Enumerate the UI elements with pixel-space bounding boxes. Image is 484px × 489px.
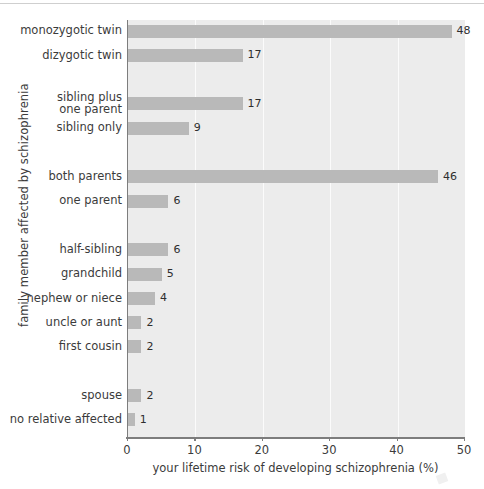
bar-value-label: 2 bbox=[146, 316, 153, 329]
x-tick-label-50: 50 bbox=[444, 443, 484, 457]
bar bbox=[128, 170, 438, 183]
category-label: sibling only bbox=[0, 121, 122, 134]
x-axis-line bbox=[126, 437, 465, 439]
bar bbox=[128, 97, 243, 110]
bar bbox=[128, 25, 452, 38]
category-label: sibling plus one parent bbox=[0, 91, 122, 116]
gridline-40 bbox=[398, 20, 399, 437]
category-label: both parents bbox=[0, 170, 122, 183]
x-tick-mark-0 bbox=[127, 437, 128, 441]
chart-page: family member affected by schizophrenia … bbox=[0, 0, 484, 489]
bar-value-label: 6 bbox=[173, 243, 180, 256]
category-label: half-sibling bbox=[0, 243, 122, 256]
bar bbox=[128, 340, 141, 353]
bar-value-label: 17 bbox=[248, 48, 262, 61]
x-tick-label-30: 30 bbox=[309, 443, 349, 457]
x-tick-label-20: 20 bbox=[242, 443, 282, 457]
bar-value-label: 2 bbox=[146, 340, 153, 353]
bar bbox=[128, 49, 243, 62]
x-tick-mark-20 bbox=[262, 437, 263, 441]
x-tick-label-10: 10 bbox=[174, 443, 214, 457]
category-label: one parent bbox=[0, 194, 122, 207]
gridline-30 bbox=[330, 20, 331, 437]
bar-value-label: 46 bbox=[443, 170, 457, 183]
bar bbox=[128, 243, 168, 256]
bar-value-label: 6 bbox=[173, 194, 180, 207]
plot-area: 48171794666542221 bbox=[127, 20, 465, 437]
x-tick-mark-10 bbox=[194, 437, 195, 441]
bar-value-label: 2 bbox=[146, 389, 153, 402]
category-label: uncle or aunt bbox=[0, 316, 122, 329]
category-label: no relative affected bbox=[0, 413, 122, 426]
category-label: grandchild bbox=[0, 267, 122, 280]
gridline-20 bbox=[263, 20, 264, 437]
category-label: spouse bbox=[0, 389, 122, 402]
bar bbox=[128, 195, 168, 208]
x-tick-label-0: 0 bbox=[107, 443, 147, 457]
bar-value-label: 17 bbox=[248, 97, 262, 110]
bar-value-label: 1 bbox=[140, 413, 147, 426]
bar bbox=[128, 389, 141, 402]
x-axis-title: your lifetime risk of developing schizop… bbox=[127, 461, 464, 475]
x-tick-label-40: 40 bbox=[377, 443, 417, 457]
gridline-10 bbox=[195, 20, 196, 437]
bar-value-label: 48 bbox=[457, 24, 471, 37]
x-tick-mark-30 bbox=[329, 437, 330, 441]
bar bbox=[128, 316, 141, 329]
category-label-column: monozygotic twindizygotic twinsibling pl… bbox=[0, 0, 122, 489]
category-label: dizygotic twin bbox=[0, 49, 122, 62]
bar bbox=[128, 122, 189, 135]
category-label: first cousin bbox=[0, 340, 122, 353]
bar bbox=[128, 292, 155, 305]
bar-value-label: 5 bbox=[167, 267, 174, 280]
x-tick-mark-50 bbox=[464, 437, 465, 441]
bar-value-label: 4 bbox=[160, 291, 167, 304]
category-label: monozygotic twin bbox=[0, 24, 122, 37]
bar-value-label: 9 bbox=[194, 121, 201, 134]
category-label: nephew or niece bbox=[0, 292, 122, 305]
bar bbox=[128, 268, 162, 281]
bar bbox=[128, 413, 135, 426]
x-tick-mark-40 bbox=[397, 437, 398, 441]
